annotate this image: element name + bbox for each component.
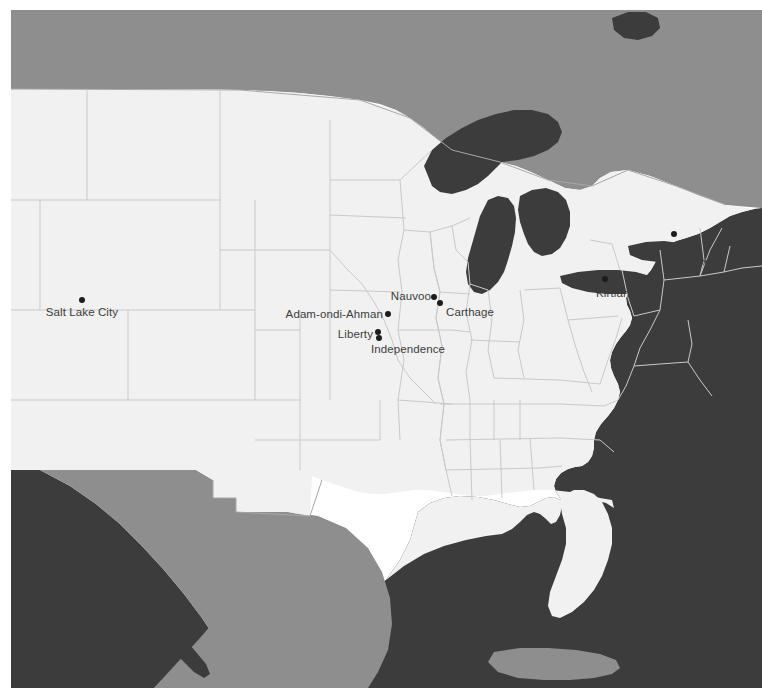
site-label-adam-ondi-ahman: Adam-ondi-Ahman [286, 308, 383, 321]
site-label-independence: Independence [371, 343, 445, 356]
site-dot-carthage[interactable] [437, 300, 443, 306]
site-dot-independence[interactable] [376, 335, 382, 341]
site-label-palmyra: Palmyra [672, 256, 715, 269]
site-dot-nauvoo[interactable] [431, 294, 437, 300]
site-dot-adam-ondi-ahman[interactable] [385, 311, 391, 317]
site-dot-palmyra[interactable] [671, 231, 677, 237]
map-figure: Salt Lake City Adam-ondi-Ahman Liberty I… [0, 0, 762, 688]
site-dot-salt-lake-city[interactable] [79, 297, 85, 303]
site-dot-kirtland[interactable] [602, 276, 608, 282]
site-label-salt-lake-city: Salt Lake City [46, 306, 118, 319]
site-label-liberty: Liberty [338, 328, 373, 341]
site-label-carthage: Carthage [446, 306, 494, 319]
site-label-kirtland: Kirtland [596, 287, 636, 300]
site-label-nauvoo: Nauvoo [391, 290, 431, 303]
